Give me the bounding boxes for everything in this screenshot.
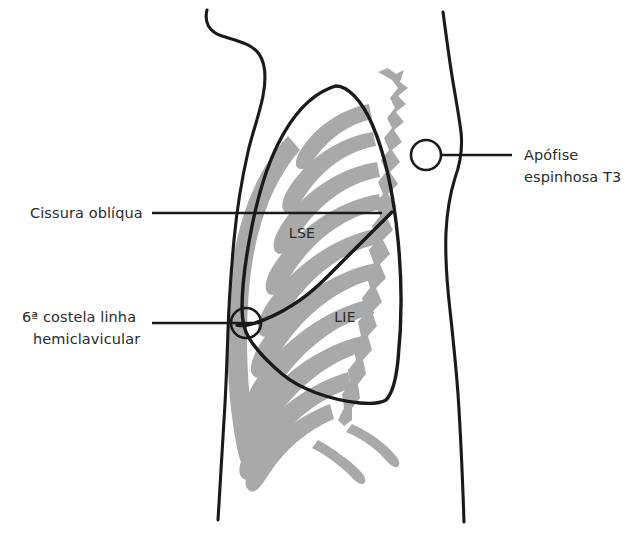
- costal-tip-a: [346, 424, 399, 467]
- label-apofise-t3-line1: Apófise: [524, 147, 578, 163]
- marker-circle-apofise-t3: [411, 140, 441, 170]
- label-sexta-costela-line1: 6ª costela linha: [22, 309, 136, 325]
- costal-tip-b: [312, 440, 365, 484]
- label-apofise-t3-line2: espinhosa T3: [524, 169, 621, 185]
- lobe-label-lse: LSE: [289, 225, 315, 241]
- body-outline-posterior: [443, 12, 464, 522]
- label-sexta-costela-line2: hemiclavicular: [33, 331, 140, 347]
- labels-group: Cissura oblíqua 6ª costela linha hemicla…: [22, 147, 621, 347]
- chest-anatomy-figure: Cissura oblíqua 6ª costela linha hemicla…: [0, 0, 633, 539]
- label-cissura-obliqua: Cissura oblíqua: [30, 205, 143, 221]
- lobe-label-lie: LIE: [334, 309, 356, 325]
